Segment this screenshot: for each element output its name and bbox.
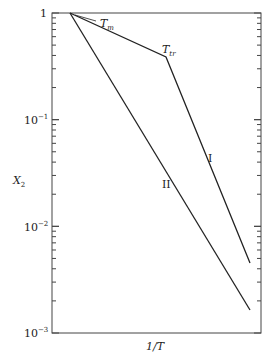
plot-frame — [52, 13, 261, 333]
ytick-label-1: 1 — [40, 7, 47, 20]
x-axis-label: 1/T — [146, 340, 166, 353]
solubility-chart: 1 10−1 10−2 10−3 X2 1/T Tm Ttr I II — [0, 0, 273, 358]
curve-II-line — [70, 13, 250, 310]
y-axis-ticks-right — [254, 13, 261, 333]
ytick-label-1e-3: 10−3 — [24, 326, 48, 340]
y-axis-label: X2 — [12, 174, 25, 189]
ytick-label-1e-1: 10−1 — [24, 113, 48, 127]
ytick-label-1e-2: 10−2 — [24, 220, 48, 234]
curve-I-label: I — [208, 152, 212, 165]
curve-I-line — [70, 13, 250, 263]
ttr-label: Ttr — [162, 43, 176, 58]
y-axis-ticks-left — [52, 13, 59, 333]
curve-II-label: II — [162, 178, 171, 191]
tm-label: Tm — [100, 17, 114, 32]
